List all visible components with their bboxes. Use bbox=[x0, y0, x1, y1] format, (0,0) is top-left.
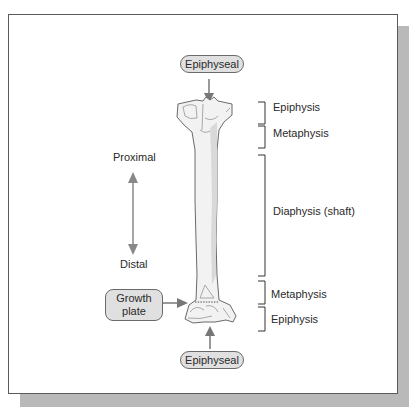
region-brackets bbox=[258, 102, 265, 331]
bottom-arrow-icon bbox=[205, 326, 215, 349]
proximal-label: Proximal bbox=[113, 151, 156, 164]
growth-plate-label: Growth plate bbox=[105, 289, 163, 321]
tibia-bone bbox=[177, 97, 236, 323]
region-label-metaphysis-proximal: Metaphysis bbox=[273, 127, 329, 140]
region-label-epiphysis-proximal: Epiphysis bbox=[273, 101, 320, 114]
growth-plate-line2: plate bbox=[106, 305, 162, 318]
distal-label: Distal bbox=[120, 258, 148, 271]
region-label-diaphysis: Diaphysis (shaft) bbox=[273, 205, 355, 218]
region-label-metaphysis-distal: Metaphysis bbox=[271, 288, 327, 301]
top-epiphyseal-label: Epiphyseal bbox=[180, 55, 244, 73]
growth-plate-arrow-icon bbox=[163, 298, 188, 308]
growth-plate-line1: Growth bbox=[106, 292, 162, 305]
region-label-epiphysis-distal: Epiphysis bbox=[271, 313, 318, 326]
proximal-distal-arrow-icon bbox=[128, 172, 138, 255]
bottom-epiphyseal-label: Epiphyseal bbox=[180, 351, 244, 369]
